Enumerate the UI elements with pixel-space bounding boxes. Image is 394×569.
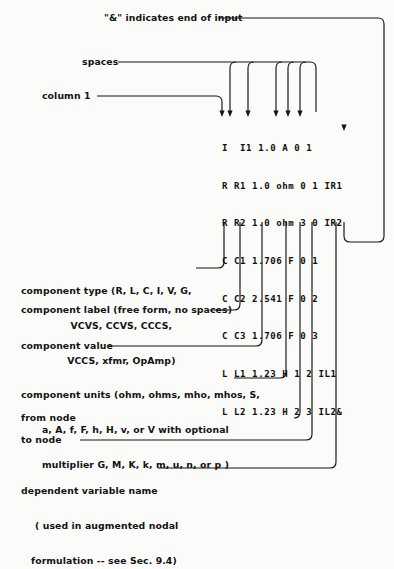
- label-dependent-variable-name: dependent variable name ( used in augmen…: [21, 462, 178, 569]
- label-component-units-line-1: component units (ohm, ohms, mho, mhos, S…: [21, 389, 260, 401]
- leader-spaces-b1: [230, 62, 236, 112]
- label-depvar-line-3: formulation -- see Sec. 9.4): [21, 555, 178, 567]
- leader-component-type: [196, 222, 224, 268]
- label-component-value: component value: [21, 340, 113, 352]
- label-to-node: to node: [21, 434, 62, 446]
- label-end-of-input: "&" indicates end of input: [104, 12, 243, 24]
- label-from-node: from node: [21, 412, 76, 424]
- label-spaces: spaces: [82, 56, 118, 68]
- leader-spaces-b5: [300, 62, 306, 112]
- leader-column-1: [97, 96, 222, 112]
- netlist-row: R R1 1.0 ohm 0 1 IR1: [222, 180, 343, 193]
- netlist-row: C C2 2.541 F 0 2: [222, 293, 343, 306]
- leader-spaces-b2: [248, 62, 254, 112]
- leader-spaces-b4: [288, 62, 294, 112]
- label-column-1: column 1: [42, 90, 91, 102]
- leader-spaces-trunk: [118, 62, 316, 112]
- netlist-row: R R2 1.0 ohm 3 0 IR2: [222, 217, 343, 230]
- label-component-type-line-1: component type (R, L, C, I, V, G,: [21, 285, 192, 297]
- label-component-label: component label (free form, no spaces): [21, 304, 232, 316]
- label-depvar-line-1: dependent variable name: [21, 485, 178, 497]
- label-component-type-line-3: VCCS, xfmr, OpAmp): [21, 355, 192, 367]
- netlist-row: C C1 1.706 F 0 1: [222, 255, 343, 268]
- label-component-type-line-2: VCVS, CCVS, CCCS,: [21, 320, 192, 332]
- netlist-row: C C3 1.706 F 0 3: [222, 330, 343, 343]
- label-depvar-line-2: ( used in augmented nodal: [21, 520, 178, 532]
- leader-spaces-b3: [276, 62, 282, 112]
- netlist-row: I I1 1.0 A 0 1: [222, 142, 343, 155]
